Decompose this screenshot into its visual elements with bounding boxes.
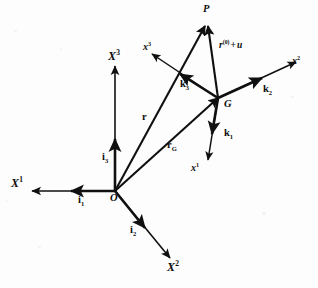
basis-vector-label-i3-sub: 3	[105, 157, 108, 164]
axis-label-x2-sup: 2	[297, 54, 300, 61]
axis-label-X2: X2	[167, 261, 179, 273]
axis-label-X1-base: X	[11, 176, 19, 190]
axis-label-X3-sup: 3	[116, 48, 120, 57]
basis-vector-label-k1: k1	[224, 128, 233, 139]
basis-vector-label-k1-sub: 1	[230, 133, 233, 140]
axis-label-x1: x1	[191, 163, 199, 173]
axis-label-x3: x3	[143, 42, 151, 52]
axis-label-X1-sup: 1	[19, 175, 23, 184]
position-vector-label-r: r	[142, 112, 147, 123]
position-vector-label-rG-sub: G	[172, 145, 177, 152]
axis-label-x2: x2	[292, 56, 300, 66]
position-vector-label-rG: rG	[167, 140, 177, 151]
axis-label-x1-sup: 1	[196, 161, 199, 168]
basis-vector-label-k2: k2	[263, 84, 272, 95]
relative-vector-label-term: u	[237, 40, 242, 50]
axis-label-X3: X3	[108, 50, 120, 62]
basis-vector-label-i3: i3	[102, 152, 108, 163]
point-label-P: P	[203, 4, 209, 15]
axis-label-X2-sup: 2	[175, 259, 179, 268]
point-label-G: G	[224, 99, 232, 110]
point-label-O: O	[110, 193, 118, 204]
basis-vector-label-i2-sub: 2	[133, 230, 136, 237]
relative-vector-rel-line	[208, 26, 218, 98]
figure-canvas: P G O X1 X2 X3 x1 x2 x3 i1 i2 i3 k1 k2 k…	[0, 0, 318, 288]
basis-vector-label-k3: k3	[180, 79, 189, 90]
relative-vector-label-expression: r(0)+u	[219, 41, 242, 51]
diagram-vector-graphics	[0, 0, 318, 288]
basis-vector-label-i2: i2	[130, 225, 136, 236]
relative-vector-label-operator: +	[230, 40, 237, 50]
relative-vector-label-sup: (0)	[223, 39, 230, 45]
basis-vector-label-k2-sub: 2	[269, 89, 272, 96]
basis-vector-label-k3-sub: 3	[186, 84, 189, 91]
axis-label-x3-sup: 3	[148, 40, 151, 47]
basis-vector-i2-line	[115, 191, 145, 228]
axis-label-X2-base: X	[167, 260, 175, 274]
axis-label-X1: X1	[11, 177, 23, 189]
basis-vector-k2-line	[218, 78, 262, 98]
basis-vector-label-i1-sub: 1	[81, 200, 84, 207]
basis-vector-label-i1: i1	[78, 195, 84, 206]
axis-label-X3-base: X	[108, 49, 116, 63]
